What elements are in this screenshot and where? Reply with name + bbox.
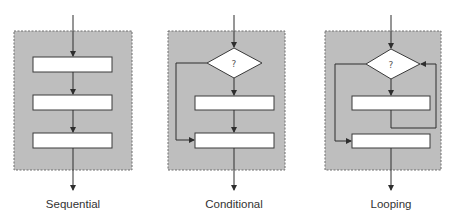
loop-body-box xyxy=(352,96,430,110)
process-box-2 xyxy=(33,95,112,110)
process-box-2 xyxy=(195,133,274,148)
sequential-label: Sequential xyxy=(46,198,100,210)
looping-diagram: ? Looping xyxy=(325,15,441,210)
conditional-label: Conditional xyxy=(205,198,263,210)
control-structures-diagram: Sequential ? Conditional ? Looping xyxy=(0,0,454,220)
decision-symbol: ? xyxy=(232,59,237,69)
process-box-1 xyxy=(33,57,112,72)
sequential-diagram: Sequential xyxy=(14,15,132,210)
process-box-1 xyxy=(195,96,274,110)
looping-label: Looping xyxy=(371,198,412,210)
process-box-3 xyxy=(33,133,112,148)
conditional-diagram: ? Conditional xyxy=(168,15,285,210)
decision-symbol: ? xyxy=(389,60,394,70)
process-box-after-loop xyxy=(352,134,430,148)
